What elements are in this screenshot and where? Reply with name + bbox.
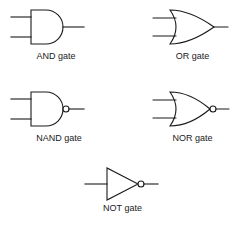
gate-label-nor: NOR gate: [140, 133, 245, 144]
nor-gate-svg: [150, 88, 230, 132]
nand-gate-svg: [8, 88, 88, 132]
or-gate-svg: [150, 6, 230, 50]
nor-inversion-bubble: [210, 106, 216, 112]
logic-gate-diagram: AND gate OR gate NAND gate: [0, 0, 245, 226]
nor-body: [170, 92, 210, 126]
gate-symbol-nand: [8, 88, 88, 132]
gate-symbol-and: [8, 6, 88, 50]
and-body: [31, 10, 63, 44]
and-gate-svg: [8, 6, 88, 50]
gate-label-nand: NAND gate: [0, 133, 118, 144]
gate-symbol-nor: [150, 88, 230, 132]
gate-label-and: AND gate: [0, 51, 112, 62]
gate-label-not: NOT gate: [70, 203, 175, 214]
gate-symbol-not: [82, 162, 162, 206]
nand-body: [31, 92, 63, 126]
gate-symbol-or: [150, 6, 230, 50]
not-gate-svg: [82, 162, 162, 206]
nand-inversion-bubble: [63, 106, 69, 112]
gate-label-or: OR gate: [140, 51, 245, 62]
not-body: [107, 168, 138, 200]
or-body: [170, 10, 214, 44]
not-inversion-bubble: [138, 181, 144, 187]
